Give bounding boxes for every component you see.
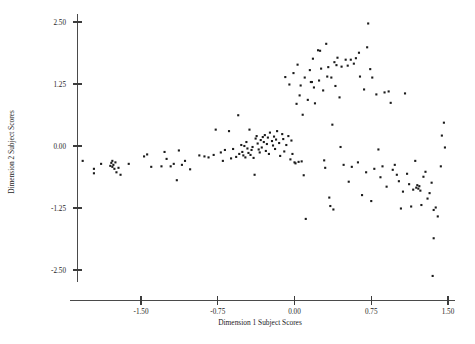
x-axis-title: Dimension 1 Subject Scores <box>218 318 302 327</box>
data-point <box>398 180 400 182</box>
data-point <box>366 46 368 48</box>
data-point <box>433 237 435 239</box>
data-point <box>319 50 321 52</box>
data-point <box>394 164 396 166</box>
data-point <box>166 158 168 160</box>
data-point <box>115 171 117 173</box>
data-point <box>112 164 114 166</box>
data-point <box>250 149 252 151</box>
data-point <box>350 59 352 61</box>
data-point <box>404 92 406 94</box>
data-point <box>246 147 248 149</box>
x-tick-label: 0.00 <box>288 308 301 316</box>
data-point <box>443 122 445 124</box>
data-point <box>262 136 264 138</box>
data-point <box>359 76 361 78</box>
data-point <box>160 165 162 167</box>
x-axis-group: -1.50-0.750.000.751.50 <box>70 296 455 316</box>
data-point <box>257 142 259 144</box>
y-tick-label: -1.25 <box>51 205 66 213</box>
data-point <box>170 165 172 167</box>
data-point <box>198 154 200 156</box>
data-point <box>320 68 322 70</box>
data-point <box>264 134 266 136</box>
data-point <box>260 139 262 141</box>
data-point <box>275 139 277 141</box>
data-point <box>318 79 320 81</box>
data-point <box>259 151 261 153</box>
data-point <box>269 132 271 134</box>
data-point <box>274 148 276 150</box>
data-point <box>285 144 287 146</box>
x-tick-label: -0.75 <box>210 308 225 316</box>
data-point <box>309 69 311 71</box>
data-point <box>189 168 191 170</box>
data-point <box>222 160 224 162</box>
data-point <box>343 164 345 166</box>
data-point <box>400 207 402 209</box>
data-point <box>228 130 230 132</box>
data-point <box>396 174 398 176</box>
data-point <box>406 173 408 175</box>
data-point <box>381 165 383 167</box>
data-point <box>370 200 372 202</box>
y-tick-label: 1.25 <box>53 81 66 89</box>
data-point <box>422 176 424 178</box>
data-point <box>213 154 215 156</box>
y-tick-label: 2.50 <box>53 19 66 27</box>
data-point <box>355 57 357 59</box>
x-tick-label: -1.50 <box>134 308 149 316</box>
data-point <box>290 139 292 141</box>
data-point <box>255 138 257 140</box>
data-point <box>284 76 286 78</box>
data-point <box>435 206 437 208</box>
data-point <box>111 166 113 168</box>
data-point <box>278 142 280 144</box>
data-point <box>333 61 335 63</box>
data-point <box>237 114 239 116</box>
data-point <box>416 184 418 186</box>
data-point <box>369 68 371 70</box>
data-point <box>371 77 373 79</box>
data-point <box>266 143 268 145</box>
data-point <box>294 162 296 164</box>
data-point <box>322 89 324 91</box>
data-point <box>268 153 270 155</box>
data-point <box>313 86 315 88</box>
y-axis-title: Dimension 2 Subject Scores <box>7 110 16 194</box>
data-point <box>410 205 412 207</box>
data-point <box>109 165 111 167</box>
data-point <box>325 43 327 45</box>
data-point <box>111 160 113 162</box>
data-point <box>150 166 152 168</box>
data-point <box>353 63 355 65</box>
data-point <box>273 136 275 138</box>
data-point <box>414 160 416 162</box>
data-point <box>429 192 431 194</box>
data-point <box>265 150 267 152</box>
data-point <box>347 65 349 67</box>
data-point <box>441 135 443 137</box>
data-point <box>240 144 242 146</box>
data-point <box>244 156 246 158</box>
x-tick-label: 1.50 <box>442 308 455 316</box>
data-point <box>184 160 186 162</box>
data-point <box>365 171 367 173</box>
data-point <box>230 157 232 159</box>
data-point <box>328 197 330 199</box>
scatter-plot-svg: 2.501.250.00-1.25-2.50 -1.50-0.750.000.7… <box>0 0 475 344</box>
data-point <box>377 148 379 150</box>
data-point <box>415 187 417 189</box>
data-point <box>375 93 377 95</box>
data-point <box>301 160 303 162</box>
data-point <box>358 52 360 54</box>
data-point <box>178 149 180 151</box>
data-point <box>271 140 273 142</box>
data-point <box>392 169 394 171</box>
data-point <box>247 152 249 154</box>
data-point <box>143 155 145 157</box>
data-point <box>235 156 237 158</box>
data-point <box>291 153 293 155</box>
data-point <box>331 124 333 126</box>
data-point <box>338 96 340 98</box>
